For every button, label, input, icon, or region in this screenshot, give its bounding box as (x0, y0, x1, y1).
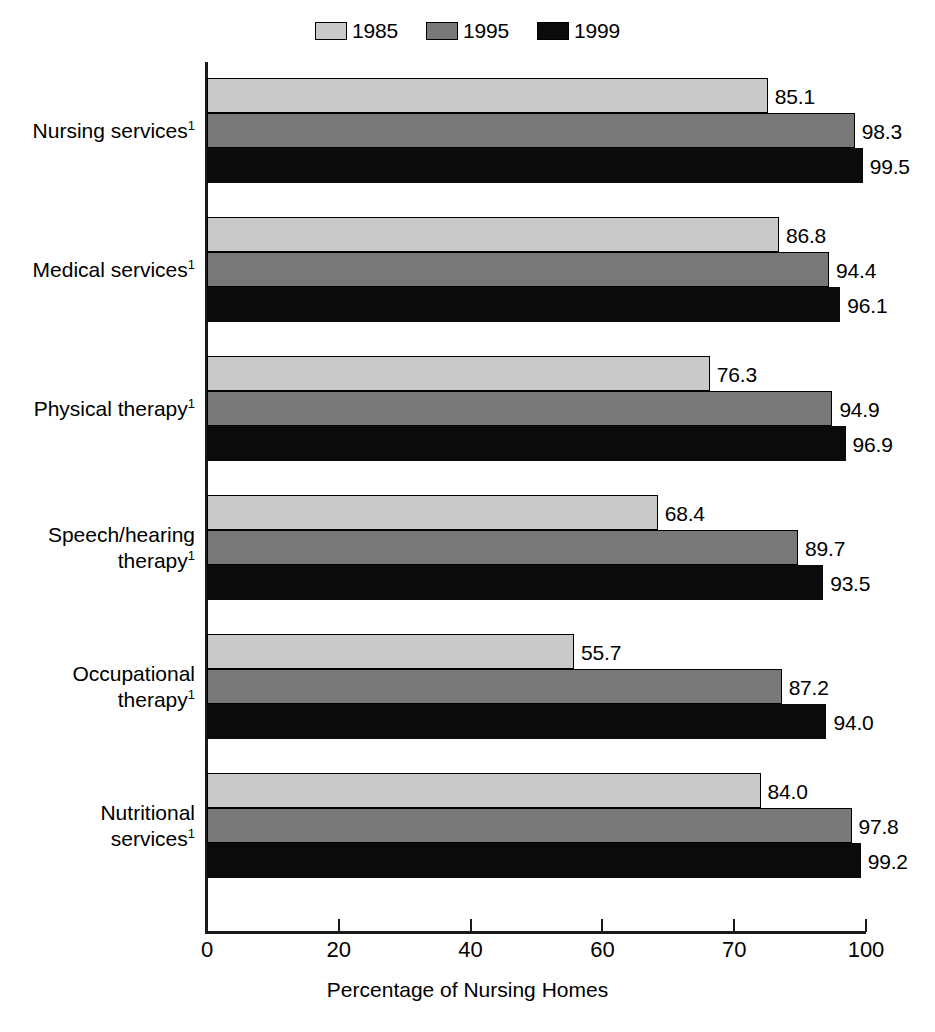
bar-value-label: 94.9 (839, 398, 879, 419)
bar-1995[interactable] (207, 391, 832, 426)
x-axis-tick (601, 919, 603, 932)
category-label-line: services (111, 827, 188, 850)
legend-swatch-1985 (315, 22, 347, 40)
category-label-line: therapy (118, 688, 188, 711)
category-label-line: Occupational (72, 662, 195, 685)
bar-row: 84.0 (207, 773, 866, 808)
bar-value-label: 86.8 (786, 224, 826, 245)
bar-1985[interactable] (207, 773, 761, 808)
bar-1999[interactable] (207, 148, 863, 183)
chart-legend: 198519951999 (0, 20, 935, 41)
bar-group: 68.489.793.5 (207, 495, 866, 600)
x-axis-tick-label: 20 (327, 938, 351, 962)
x-axis-tick (470, 919, 472, 932)
bar-row: 76.3 (207, 356, 866, 391)
bar-row: 93.5 (207, 565, 866, 600)
bar-row: 97.8 (207, 808, 866, 843)
category-label-line: Medical services (33, 258, 188, 281)
bar-value-label: 97.8 (859, 815, 899, 836)
bar-value-label: 68.4 (665, 502, 705, 523)
bar-1995[interactable] (207, 808, 852, 843)
bar-1995[interactable] (207, 530, 798, 565)
category-label-line: therapy (118, 549, 188, 572)
bar-row: 96.1 (207, 287, 866, 322)
bar-value-label: 99.2 (868, 850, 908, 871)
bar-1985[interactable] (207, 78, 768, 113)
bar-value-label: 89.7 (805, 537, 845, 558)
footnote-marker: 1 (188, 826, 195, 841)
bar-row: 89.7 (207, 530, 866, 565)
bar-value-label: 84.0 (768, 780, 808, 801)
footnote-marker: 1 (188, 118, 195, 133)
legend-item-1995[interactable]: 1995 (426, 20, 509, 41)
bar-1999[interactable] (207, 426, 846, 461)
legend-swatch-1999 (537, 22, 569, 40)
category-label-line: Nutritional (100, 801, 195, 824)
bar-1999[interactable] (207, 565, 823, 600)
category-label-line: Nursing services (33, 119, 188, 142)
bar-row: 87.2 (207, 669, 866, 704)
legend-label-1985: 1985 (352, 20, 398, 41)
x-axis-tick-label: 40 (458, 938, 482, 962)
bar-group: 85.198.399.5 (207, 78, 866, 183)
x-axis-tick (865, 919, 867, 932)
bar-value-label: 99.5 (870, 155, 910, 176)
bar-1985[interactable] (207, 356, 710, 391)
bar-1999[interactable] (207, 287, 840, 322)
bar-value-label: 93.5 (830, 572, 870, 593)
category-label: Medical services1 (11, 257, 207, 283)
bar-group: 86.894.496.1 (207, 217, 866, 322)
footnote-marker: 1 (188, 687, 195, 702)
bar-row: 86.8 (207, 217, 866, 252)
bar-value-label: 96.9 (853, 433, 893, 454)
category-label: Occupationaltherapy1 (11, 661, 207, 713)
category-label-line: Physical therapy (34, 397, 188, 420)
x-axis-title: Percentage of Nursing Homes (0, 978, 935, 1002)
legend-label-1995: 1995 (463, 20, 509, 41)
footnote-marker: 1 (188, 396, 195, 411)
x-axis-tick-label: 100 (848, 938, 885, 962)
bar-1985[interactable] (207, 217, 779, 252)
bar-row: 99.2 (207, 843, 866, 878)
x-axis-tick-label: 70 (722, 938, 746, 962)
bar-1995[interactable] (207, 113, 855, 148)
bar-value-label: 98.3 (862, 120, 902, 141)
legend-item-1999[interactable]: 1999 (537, 20, 620, 41)
bar-group: 55.787.294.0 (207, 634, 866, 739)
footnote-marker: 1 (188, 257, 195, 272)
bar-value-label: 96.1 (847, 294, 887, 315)
bar-1995[interactable] (207, 252, 829, 287)
bar-1999[interactable] (207, 843, 861, 878)
category-label: Nursing services1 (11, 118, 207, 144)
bar-row: 94.9 (207, 391, 866, 426)
x-axis-tick-label: 0 (201, 938, 213, 962)
footnote-marker: 1 (188, 548, 195, 563)
x-axis-line (205, 931, 866, 934)
x-axis-tick (206, 919, 208, 932)
category-label: Nutritionalservices1 (11, 800, 207, 852)
bar-value-label: 55.7 (581, 641, 621, 662)
bar-row: 96.9 (207, 426, 866, 461)
bar-row: 99.5 (207, 148, 866, 183)
x-axis-tick (733, 919, 735, 932)
bar-row: 85.1 (207, 78, 866, 113)
bar-group: 84.097.899.2 (207, 773, 866, 878)
x-axis-tick-label: 60 (590, 938, 614, 962)
bar-value-label: 94.4 (836, 259, 876, 280)
bar-row: 94.0 (207, 704, 866, 739)
category-label-line: Speech/hearing (48, 523, 195, 546)
bar-1999[interactable] (207, 704, 826, 739)
x-axis-tick (338, 919, 340, 932)
bar-1985[interactable] (207, 634, 574, 669)
category-label: Speech/hearingtherapy1 (11, 522, 207, 574)
bar-value-label: 94.0 (833, 711, 873, 732)
bar-1985[interactable] (207, 495, 658, 530)
bar-row: 55.7 (207, 634, 866, 669)
bar-row: 94.4 (207, 252, 866, 287)
bar-value-label: 85.1 (775, 85, 815, 106)
legend-item-1985[interactable]: 1985 (315, 20, 398, 41)
bar-chart: 198519951999 02040607010085.198.399.5Nur… (0, 0, 935, 1032)
bar-1995[interactable] (207, 669, 782, 704)
bar-row: 98.3 (207, 113, 866, 148)
bar-value-label: 76.3 (717, 363, 757, 384)
